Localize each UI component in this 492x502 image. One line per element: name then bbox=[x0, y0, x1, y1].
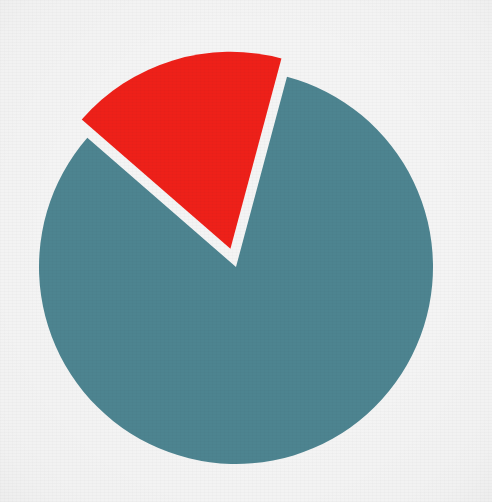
pie-chart-svg bbox=[0, 0, 492, 502]
pie-chart-figure bbox=[0, 0, 492, 502]
